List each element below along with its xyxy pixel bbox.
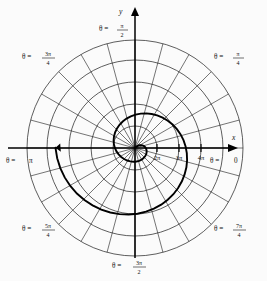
theta-3pi-over-4-prefix: θ = (22, 53, 31, 61)
theta-7pi-over-4-prefix: θ = (214, 225, 223, 233)
theta-pi-prefix: θ = (6, 157, 15, 165)
theta-zero-prefix: θ = (210, 157, 219, 165)
spoke-150 (41, 94, 135, 148)
theta-pi-over-4-prefix: θ = (214, 53, 223, 61)
axes (8, 7, 238, 258)
theta-pi-over-2-numerator: π (120, 23, 123, 29)
theta-7pi-over-4-numerator: 7π (236, 223, 242, 229)
spoke-30 (135, 94, 229, 148)
y-axis-arrowhead (131, 7, 139, 16)
spoke-300 (135, 148, 189, 242)
label-theta-pi-over-4: θ = π 4 (214, 51, 244, 66)
tick-label-3pi: 3π (176, 154, 183, 161)
polar-plot-figure: y x θ = π 2 θ = π 4 θ = 3π 4 θ = 5π 4 θ … (0, 0, 267, 281)
theta-3pi-over-4-numerator: 3π (45, 51, 51, 57)
tick-label-2pi: 2π (154, 154, 161, 161)
spoke-195 (31, 148, 135, 176)
label-theta-3pi-over-4: θ = 3π 4 (22, 51, 55, 66)
label-theta-5pi-over-4: θ = 5π 4 (22, 223, 55, 238)
spoke-285 (135, 148, 163, 252)
theta-5pi-over-4-numerator: 5π (45, 223, 51, 229)
theta-pi-over-4-numerator: π (236, 51, 239, 57)
theta-3pi-over-4-denominator: 4 (47, 60, 50, 66)
theta-pi-over-2-prefix: θ = (99, 25, 108, 33)
theta-5pi-over-4-prefix: θ = (22, 225, 31, 233)
theta-3pi-over-2-prefix: θ = (112, 262, 121, 270)
label-theta-zero: θ = 0 (210, 157, 238, 165)
spoke-120 (81, 54, 135, 148)
x-axis-arrowhead (228, 144, 238, 152)
spoke-105 (107, 44, 135, 148)
theta-7pi-over-4-denominator: 4 (238, 232, 241, 238)
spoke-15 (135, 120, 239, 148)
theta-pi-value: π (29, 157, 33, 165)
theta-3pi-over-2-numerator: 3π (136, 260, 142, 266)
y-axis-label: y (118, 7, 123, 16)
polar-diagram-canvas: y x θ = π 2 θ = π 4 θ = 3π 4 θ = 5π 4 θ … (0, 0, 267, 281)
spoke-240 (81, 148, 135, 242)
label-theta-3pi-over-2: θ = 3π 2 (112, 260, 146, 275)
theta-pi-over-2-denominator: 2 (121, 32, 124, 38)
label-theta-7pi-over-4: θ = 7π 4 (214, 223, 246, 238)
label-theta-pi: θ = π (6, 157, 33, 165)
label-theta-pi-over-2: θ = π 2 (99, 23, 128, 38)
theta-3pi-over-2-denominator: 2 (138, 269, 141, 275)
x-axis-label: x (231, 133, 236, 142)
theta-5pi-over-4-denominator: 4 (47, 232, 50, 238)
theta-zero-value: 0 (234, 157, 238, 165)
spoke-75 (135, 44, 163, 148)
tick-label-4pi: 4π (198, 154, 205, 161)
spoke-255 (107, 148, 135, 252)
theta-pi-over-4-denominator: 4 (237, 60, 240, 66)
